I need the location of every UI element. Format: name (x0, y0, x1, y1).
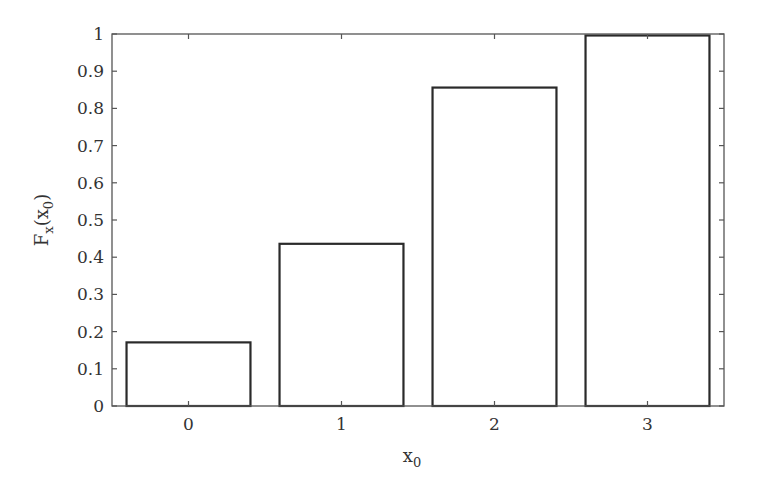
y-tick-label: 0.9 (77, 61, 104, 81)
bar-1 (280, 244, 404, 406)
y-tick-label: 0.5 (77, 210, 104, 230)
y-tick-label: 1 (93, 24, 104, 44)
y-tick-label: 0 (93, 396, 104, 416)
x-tick-label: 0 (183, 414, 194, 434)
bar-0 (127, 342, 251, 406)
y-tick-label: 0.6 (77, 173, 104, 193)
y-tick-label: 0.2 (77, 322, 104, 342)
x-axis-ticks: 0123 (183, 34, 653, 434)
y-axis-label: Fx(x0) (31, 194, 56, 246)
x-tick-label: 3 (642, 414, 653, 434)
bars (127, 35, 710, 406)
x-tick-label: 2 (489, 414, 500, 434)
x-axis-label: x0 (403, 445, 421, 470)
y-tick-label: 0.1 (77, 359, 104, 379)
y-tick-label: 0.4 (77, 247, 104, 267)
bar-3 (586, 35, 710, 406)
y-tick-label: 0.3 (77, 284, 104, 304)
bar-2 (433, 88, 557, 406)
x-tick-label: 1 (336, 414, 347, 434)
bar-chart: 00.10.20.30.40.50.60.70.80.91 0123 x0 Fx… (0, 0, 760, 486)
y-tick-label: 0.7 (77, 136, 104, 156)
y-tick-label: 0.8 (77, 98, 104, 118)
